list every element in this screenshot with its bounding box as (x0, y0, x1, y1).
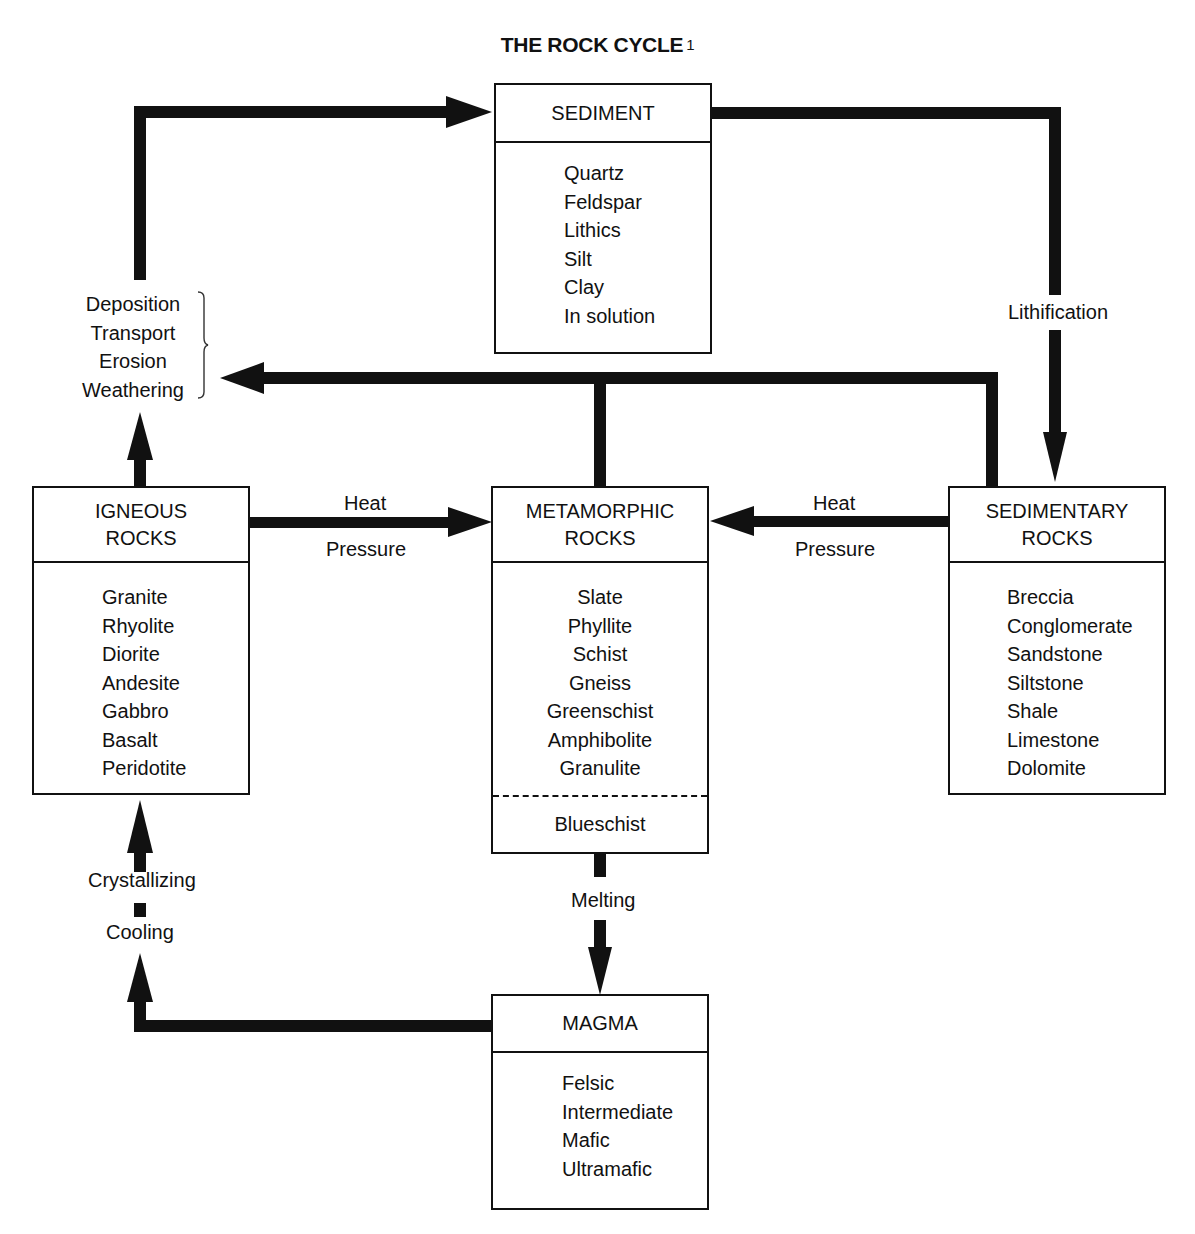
arrowhead-crystallizing (127, 800, 153, 853)
sediment-box: SEDIMENT Quartz Feldspar Lithics Silt Cl… (494, 83, 712, 354)
arrowhead-sed-to-meta (710, 506, 754, 536)
igneous-heading-line2: ROCKS (105, 525, 176, 552)
line-melting-lower (594, 920, 606, 950)
metamorphic-item: Gneiss (493, 669, 707, 698)
line-magma-to-igneous (134, 1002, 492, 1032)
igneous-item: Peridotite (102, 754, 248, 783)
sediment-item: Feldspar (564, 188, 710, 217)
igneous-heading: IGNEOUS ROCKS (34, 488, 248, 563)
magma-item: Intermediate (562, 1098, 707, 1127)
metamorphic-heading: METAMORPHIC ROCKS (493, 488, 707, 563)
igneous-item: Basalt (102, 726, 248, 755)
metamorphic-item: Phyllite (493, 612, 707, 641)
arrowhead-cooling (127, 953, 153, 1002)
sedimentary-item: Siltstone (1007, 669, 1164, 698)
magma-item: Felsic (562, 1069, 707, 1098)
sediment-item: Quartz (564, 159, 710, 188)
sediment-item: Silt (564, 245, 710, 274)
line-melting-upper (594, 853, 606, 877)
diagram-title: THE ROCK CYCLE1 (0, 33, 1195, 57)
sedimentary-items: Breccia Conglomerate Sandstone Siltstone… (950, 563, 1164, 783)
sediment-item: Clay (564, 273, 710, 302)
process-weathering: Weathering (82, 376, 184, 405)
sediment-items: Quartz Feldspar Lithics Silt Clay In sol… (496, 143, 710, 330)
metamorphic-heading-line2: ROCKS (564, 525, 635, 552)
sedimentary-heat-label: Heat (813, 490, 855, 517)
sedimentary-heading-line2: ROCKS (1021, 525, 1092, 552)
crystallizing-label: Crystallizing (88, 867, 196, 894)
igneous-items: Granite Rhyolite Diorite Andesite Gabbro… (34, 563, 248, 783)
arrowhead-igneous-to-meta (448, 507, 492, 537)
sedimentary-item: Breccia (1007, 583, 1164, 612)
arrowhead-weathering (220, 362, 264, 394)
weathering-return-line (262, 372, 998, 487)
igneous-item: Granite (102, 583, 248, 612)
arrowhead-melting (588, 947, 612, 995)
igneous-item: Gabbro (102, 697, 248, 726)
brace-icon (198, 292, 208, 398)
magma-items: Felsic Intermediate Mafic Ultramafic (493, 1053, 707, 1183)
process-transport: Transport (82, 319, 184, 348)
igneous-box: IGNEOUS ROCKS Granite Rhyolite Diorite A… (32, 486, 250, 795)
process-deposition: Deposition (82, 290, 184, 319)
metamorphic-item: Slate (493, 583, 707, 612)
metamorphic-item: Granulite (493, 754, 707, 783)
igneous-item: Andesite (102, 669, 248, 698)
sedimentary-item: Sandstone (1007, 640, 1164, 669)
sedimentary-pressure-label: Pressure (795, 536, 875, 563)
title-text: THE ROCK CYCLE (501, 33, 683, 56)
igneous-item: Rhyolite (102, 612, 248, 641)
magma-item: Mafic (562, 1126, 707, 1155)
igneous-heading-line1: IGNEOUS (95, 498, 187, 525)
line-sediment-right (712, 107, 1061, 295)
magma-item: Ultramafic (562, 1155, 707, 1184)
igneous-pressure-label: Pressure (326, 536, 406, 563)
metamorphic-item: Schist (493, 640, 707, 669)
melting-label: Melting (571, 887, 635, 914)
sedimentary-box: SEDIMENTARY ROCKS Breccia Conglomerate S… (948, 486, 1166, 795)
magma-box: MAGMA Felsic Intermediate Mafic Ultramaf… (491, 994, 709, 1210)
arrow-to-sediment (134, 106, 448, 280)
metamorphic-item: Amphibolite (493, 726, 707, 755)
arrowhead-lithification (1043, 432, 1067, 482)
magma-heading: MAGMA (493, 996, 707, 1053)
title-footnote: 1 (686, 36, 694, 53)
sedimentary-item: Conglomerate (1007, 612, 1164, 641)
process-erosion: Erosion (82, 347, 184, 376)
arrowhead-to-sediment (446, 96, 492, 128)
lithification-label: Lithification (1008, 299, 1108, 326)
sedimentary-heading: SEDIMENTARY ROCKS (950, 488, 1164, 563)
sediment-item: Lithics (564, 216, 710, 245)
arrowhead-igneous-up (127, 412, 153, 460)
metamorphic-blueschist: Blueschist (493, 797, 707, 851)
line-sed-to-meta (752, 516, 948, 527)
line-igneous-to-meta (250, 517, 450, 528)
sedimentary-item: Shale (1007, 697, 1164, 726)
cooling-label: Cooling (106, 919, 174, 946)
metamorphic-box: METAMORPHIC ROCKS Slate Phyllite Schist … (491, 486, 709, 854)
line-crystallizing-gap (134, 903, 146, 917)
sediment-heading: SEDIMENT (496, 85, 710, 143)
sedimentary-heading-line1: SEDIMENTARY (986, 498, 1129, 525)
sedimentary-item: Dolomite (1007, 754, 1164, 783)
igneous-heat-label: Heat (344, 490, 386, 517)
igneous-item: Diorite (102, 640, 248, 669)
surface-processes: Deposition Transport Erosion Weathering (82, 290, 184, 404)
line-lithification-lower (1049, 330, 1061, 435)
metamorphic-heading-line1: METAMORPHIC (526, 498, 675, 525)
sedimentary-item: Limestone (1007, 726, 1164, 755)
sediment-item: In solution (564, 302, 710, 331)
metamorphic-item: Greenschist (493, 697, 707, 726)
metamorphic-items: Slate Phyllite Schist Gneiss Greenschist… (493, 563, 707, 783)
